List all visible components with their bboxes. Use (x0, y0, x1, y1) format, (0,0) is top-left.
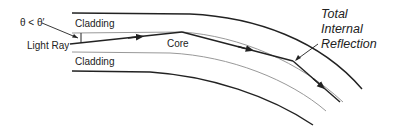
light-ray-arrow-2 (238, 47, 250, 50)
light-ray-label: Light Ray (27, 40, 69, 51)
core-label: Core (167, 38, 189, 49)
light-ray-segment-2 (182, 32, 293, 61)
light-ray-segment-1 (70, 32, 182, 44)
tir-label-line1: Total (321, 7, 349, 21)
tir-leader-arrow-icon (295, 55, 301, 61)
angle-label: θ < θ′ (20, 17, 45, 28)
tir-label-line3: Reflection (321, 37, 377, 51)
fiber-optic-diagram: θ < θ′ Light Ray Cladding Core Cladding … (0, 0, 396, 138)
outer-bottom-boundary (72, 71, 313, 125)
tir-label-line2: Internal (321, 22, 364, 36)
cladding-bottom-label: Cladding (75, 56, 114, 67)
light-ray-arrow-3 (313, 79, 322, 87)
outer-top-boundary (72, 13, 362, 89)
angle-leader-arrow-icon (72, 34, 78, 38)
cladding-top-label: Cladding (75, 18, 114, 29)
angle-leader-line (42, 23, 78, 38)
